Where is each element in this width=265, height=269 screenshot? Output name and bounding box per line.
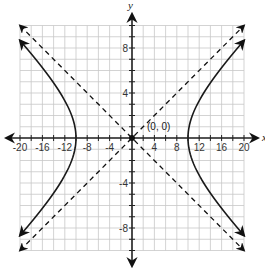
y-axis-label: y [127,0,133,11]
y-tick-label: 8 [122,43,128,54]
x-axis-label: x [261,131,265,143]
x-tick-label: 20 [238,142,250,153]
x-tick-label: -16 [35,142,50,153]
x-tick-label: 4 [152,142,158,153]
y-tick-label: -4 [119,178,128,189]
origin-label: (0, 0) [147,121,170,132]
x-tick-label: 16 [216,142,228,153]
x-tick-label: 12 [194,142,206,153]
x-tick-label: -20 [13,142,28,153]
x-tick-label: -8 [83,142,92,153]
y-tick-label: 4 [122,88,128,99]
origin-point [129,135,135,141]
x-tick-label: 8 [174,142,180,153]
x-tick-label: -4 [105,142,114,153]
y-tick-label: -8 [119,223,128,234]
x-tick-label: -12 [58,142,73,153]
hyperbola-chart: -20-16-12-8-44812162084-4-8 y x (0, 0) [0,0,265,269]
